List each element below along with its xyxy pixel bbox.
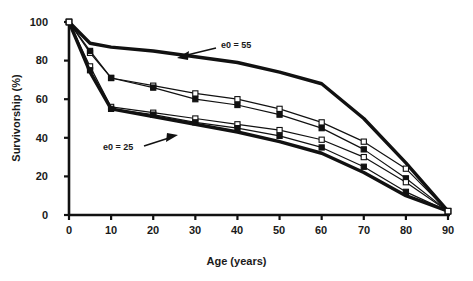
- data-point-marker: [151, 85, 156, 90]
- data-series-layer: [66, 19, 451, 214]
- data-point-marker: [361, 155, 366, 160]
- data-point-marker: [403, 166, 408, 171]
- data-point-marker: [361, 139, 366, 144]
- data-point-marker: [319, 145, 324, 150]
- terminal-marker: [445, 208, 451, 214]
- data-point-marker: [277, 127, 282, 132]
- y-tick-label-20: 20: [18, 170, 48, 182]
- data-point-marker: [235, 97, 240, 102]
- x-tick-label-20: 20: [138, 224, 168, 236]
- data-point-marker: [277, 133, 282, 138]
- x-tick-label-90: 90: [433, 224, 463, 236]
- survivorship-chart-figure: Survivorship (%) Age (years) 100 80 60 4…: [0, 0, 473, 281]
- annotation-e0-25: e0 = 25: [103, 142, 133, 152]
- data-point-marker: [277, 106, 282, 111]
- data-point-marker: [109, 75, 114, 80]
- annotation-e0-55: e0 = 55: [221, 40, 251, 50]
- y-tick-label-100: 100: [18, 16, 48, 28]
- data-point-marker: [277, 112, 282, 117]
- x-tick-label-30: 30: [180, 224, 210, 236]
- x-tick-label-70: 70: [349, 224, 379, 236]
- data-point-marker: [319, 120, 324, 125]
- x-tick-label-50: 50: [264, 224, 294, 236]
- origin-marker: [66, 19, 72, 25]
- x-tick-label-10: 10: [96, 224, 126, 236]
- y-tick-label-60: 60: [18, 93, 48, 105]
- data-point-marker: [403, 180, 408, 185]
- y-tick-label-80: 80: [18, 54, 48, 66]
- y-axis-label: Survivorship (%): [10, 58, 22, 178]
- data-point-marker: [319, 126, 324, 131]
- y-tick-label-0: 0: [18, 209, 48, 221]
- data-point-marker: [361, 147, 366, 152]
- data-point-marker: [87, 48, 92, 53]
- x-tick-label-0: 0: [54, 224, 84, 236]
- x-axis-label: Age (years): [0, 255, 473, 267]
- y-tick-label-40: 40: [18, 132, 48, 144]
- data-point-marker: [193, 91, 198, 96]
- data-point-marker: [319, 137, 324, 142]
- annotation-arrows: [144, 48, 216, 146]
- data-point-marker: [193, 97, 198, 102]
- data-point-marker: [235, 102, 240, 107]
- x-tick-label-80: 80: [391, 224, 421, 236]
- x-tick-label-40: 40: [222, 224, 252, 236]
- x-tick-label-60: 60: [306, 224, 336, 236]
- data-point-marker: [361, 164, 366, 169]
